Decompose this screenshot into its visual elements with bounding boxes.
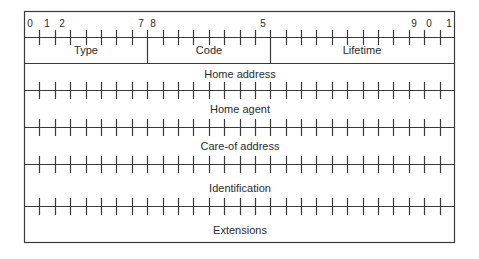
field-extensions: Extensions <box>213 224 267 236</box>
field-type: Type <box>74 44 98 56</box>
diagram-frame <box>0 0 479 259</box>
bit-number-15: 5 <box>260 19 266 29</box>
packet-format-diagram: 012785901 Type Code Lifetime Home addres… <box>0 0 479 259</box>
bit-number-29: 9 <box>411 19 417 29</box>
field-care-of-address: Care-of address <box>201 140 280 152</box>
field-code: Code <box>196 44 222 56</box>
bit-number-1: 1 <box>44 19 50 29</box>
bit-number-7: 7 <box>138 19 144 29</box>
field-identification: Identification <box>209 182 271 194</box>
bit-number-31: 1 <box>446 19 452 29</box>
bit-number-2: 2 <box>59 19 65 29</box>
bit-number-8: 8 <box>150 19 156 29</box>
field-lifetime: Lifetime <box>343 44 382 56</box>
field-home-address: Home address <box>204 68 276 80</box>
bit-number-30: 0 <box>426 19 432 29</box>
bit-number-0: 0 <box>27 19 33 29</box>
field-home-agent: Home agent <box>210 103 270 115</box>
